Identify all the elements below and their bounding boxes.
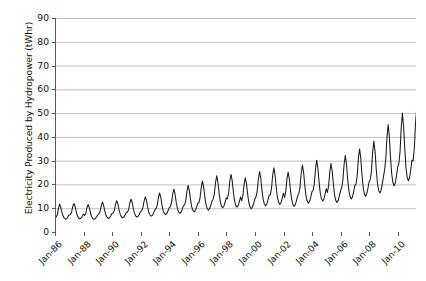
x-tickmark: [284, 232, 285, 236]
x-tickmark: [112, 232, 113, 236]
x-tickmark: [398, 232, 399, 236]
hydropower-line-chart: Electricity Produced by Hydropower (tWhr…: [0, 0, 426, 281]
x-tickmark: [55, 232, 56, 236]
x-tickmark: [198, 232, 199, 236]
x-axis-tick-labels: Jan-86Jan-88Jan-90Jan-92Jan-94Jan-96Jan-…: [0, 0, 426, 281]
x-tickmark: [226, 232, 227, 236]
x-tickmark: [255, 232, 256, 236]
x-tickmark: [141, 232, 142, 236]
x-tickmark: [169, 232, 170, 236]
x-tickmark: [84, 232, 85, 236]
x-tickmark: [369, 232, 370, 236]
x-tickmark: [312, 232, 313, 236]
x-tickmark: [341, 232, 342, 236]
